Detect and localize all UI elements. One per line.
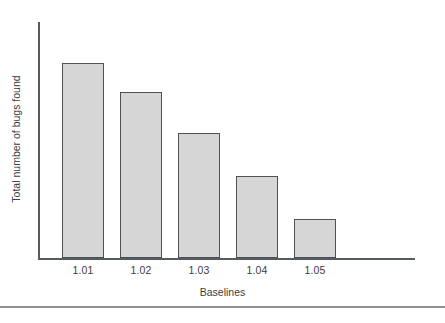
x-tick-label-1.05: 1.05 xyxy=(286,264,344,276)
y-axis-line xyxy=(38,22,40,260)
bar-1.02 xyxy=(120,92,162,258)
figure-container: 1.011.021.031.041.05 Baselines Total num… xyxy=(0,0,445,323)
x-tick-label-1.01: 1.01 xyxy=(54,264,112,276)
x-tick-label-1.04: 1.04 xyxy=(228,264,286,276)
x-tick-label-1.03: 1.03 xyxy=(170,264,228,276)
x-axis-line xyxy=(38,258,415,260)
y-axis-title: Total number of bugs found xyxy=(10,59,22,219)
bar-1.05 xyxy=(294,219,336,258)
chart-plot-area xyxy=(38,22,415,260)
bar-1.04 xyxy=(236,176,278,258)
x-tick-label-1.02: 1.02 xyxy=(112,264,170,276)
bar-1.01 xyxy=(62,63,104,258)
x-axis-title: Baselines xyxy=(0,286,445,298)
bar-1.03 xyxy=(178,133,220,258)
figure-divider-rule xyxy=(0,306,445,308)
